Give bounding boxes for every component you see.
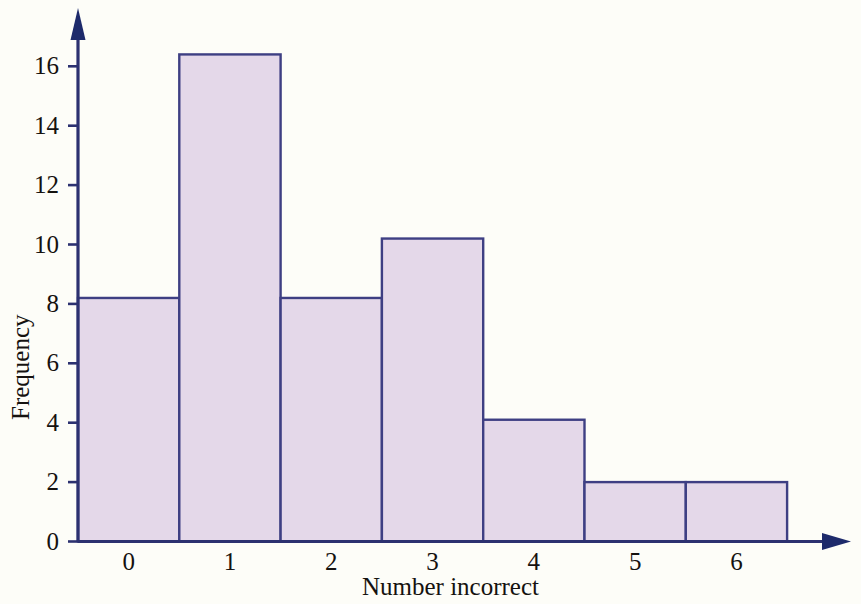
y-axis-tick-label: 0 <box>0 529 59 554</box>
arrow-up-icon <box>71 8 86 40</box>
histogram-bar <box>78 298 179 542</box>
x-axis-tick-label: 2 <box>291 549 371 574</box>
histogram-bar <box>686 482 787 541</box>
x-axis-tick-label: 4 <box>494 549 574 574</box>
y-axis-tick-label: 8 <box>0 291 59 316</box>
arrow-right-icon <box>822 533 851 550</box>
x-axis-tick-label: 1 <box>190 549 270 574</box>
histogram-bar <box>281 298 382 542</box>
y-axis-tick-label: 12 <box>0 172 59 197</box>
y-axis-tick-label: 10 <box>0 232 59 257</box>
histogram-figure: 0246810121416 0123456 Frequency Number i… <box>0 0 861 604</box>
x-axis-tick-label: 0 <box>89 549 169 574</box>
histogram-bar <box>179 54 280 541</box>
y-axis-tick-label: 16 <box>0 53 59 78</box>
y-axis-tick-label: 14 <box>0 113 59 138</box>
histogram-bar <box>585 482 686 541</box>
x-axis-tick-label: 6 <box>696 549 776 574</box>
x-axis-tick-label: 5 <box>595 549 675 574</box>
histogram-bar <box>483 420 584 542</box>
y-axis-title: Frequency <box>8 314 33 420</box>
bar-series-frequency <box>78 54 787 541</box>
x-axis-tick-label: 3 <box>393 549 473 574</box>
histogram-bar <box>382 239 483 542</box>
histogram-plot-area <box>0 0 861 604</box>
y-axis-tick-label: 2 <box>0 469 59 494</box>
x-axis-title: Number incorrect <box>0 574 861 599</box>
